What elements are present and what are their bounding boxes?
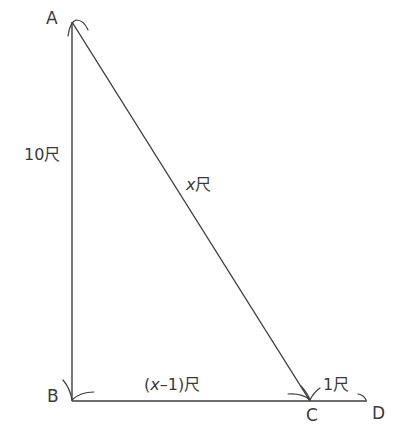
point-d-label: D bbox=[372, 403, 385, 423]
length-ab-label: 10尺 bbox=[24, 145, 60, 164]
arc-a-icon bbox=[68, 20, 88, 36]
length-cd-label: 1尺 bbox=[323, 375, 349, 394]
point-a-label: A bbox=[46, 8, 58, 28]
point-b-label: B bbox=[47, 386, 59, 406]
length-bc-label: (x–1)尺 bbox=[144, 375, 200, 394]
triangle-diagram: A B C D 10尺 x尺 (x–1)尺 1尺 bbox=[0, 0, 399, 442]
arc-d-icon bbox=[358, 394, 366, 400]
point-c-label: C bbox=[306, 405, 318, 425]
length-ac-unit: 尺 bbox=[195, 175, 211, 194]
side-ac bbox=[72, 22, 310, 401]
length-ac-label: x尺 bbox=[185, 175, 211, 194]
length-bc-rest: –1)尺 bbox=[160, 375, 200, 394]
length-ac-variable: x bbox=[185, 175, 196, 194]
length-bc-variable: x bbox=[149, 375, 160, 394]
arc-b-icon bbox=[63, 380, 94, 400]
